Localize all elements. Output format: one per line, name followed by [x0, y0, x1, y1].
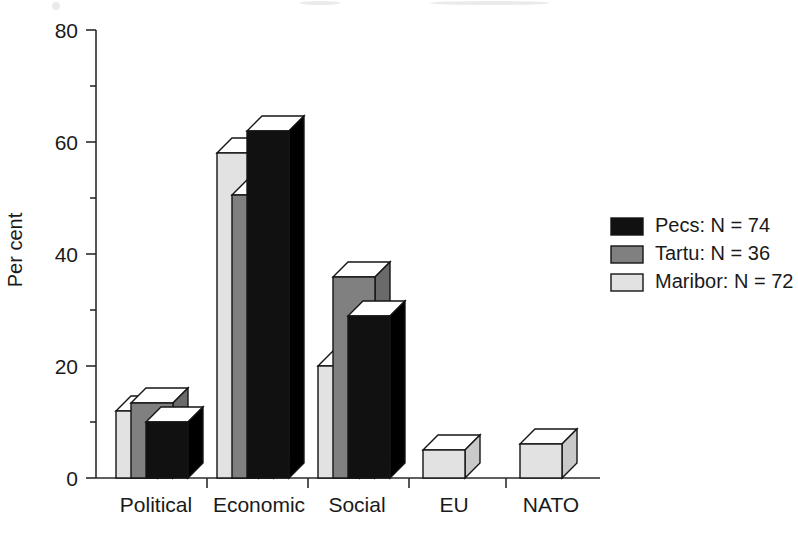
- legend-swatch-black: [611, 218, 643, 235]
- y-axis-title: Per cent: [4, 212, 26, 287]
- x-label-nato: NATO: [523, 493, 579, 516]
- y-tick-label-0: 0: [66, 467, 78, 490]
- legend-item-pecs[interactable]: Pecs: N = 74: [611, 214, 770, 236]
- bar-group-eu: [423, 435, 480, 478]
- legend-item-tartu[interactable]: Tartu: N = 36: [611, 242, 770, 264]
- chart-figure: Per cent 80 60 40 20 0: [0, 0, 798, 536]
- bar-front-face: [520, 444, 562, 478]
- bar-eu-maribor: [423, 435, 480, 478]
- legend-swatch-gray: [611, 246, 643, 263]
- bar-group-political: [116, 388, 203, 478]
- bar-front-face: [247, 131, 289, 478]
- y-tick-label-80: 80: [55, 19, 78, 42]
- bar-group-nato: [520, 429, 577, 478]
- bar-group-economic: [217, 116, 304, 478]
- legend-swatch-light: [611, 274, 643, 291]
- legend-item-maribor[interactable]: Maribor: N = 72: [611, 270, 793, 292]
- y-tick-label-40: 40: [55, 243, 78, 266]
- legend-label-tartu: Tartu: N = 36: [655, 242, 770, 264]
- bar-social-pecs: [348, 301, 405, 478]
- bar-chart-canvas: Per cent 80 60 40 20 0: [0, 0, 798, 536]
- x-label-political: Political: [120, 493, 192, 516]
- bar-economic-pecs: [247, 116, 304, 478]
- bar-front-face: [146, 422, 188, 478]
- x-axis-ticks: [207, 478, 506, 488]
- y-tick-label-20: 20: [55, 355, 78, 378]
- bar-group-social: [318, 262, 405, 478]
- y-tick-label-60: 60: [55, 131, 78, 154]
- bar-side-face: [289, 116, 304, 478]
- chart-legend: Pecs: N = 74 Tartu: N = 36 Maribor: N = …: [611, 214, 793, 292]
- bar-front-face: [348, 316, 390, 478]
- x-label-economic: Economic: [213, 493, 305, 516]
- x-label-eu: EU: [439, 493, 468, 516]
- bar-front-face: [423, 450, 465, 478]
- legend-label-maribor: Maribor: N = 72: [655, 270, 793, 292]
- legend-label-pecs: Pecs: N = 74: [655, 214, 770, 236]
- bar-nato-maribor: [520, 429, 577, 478]
- bar-political-pecs: [146, 407, 203, 478]
- y-axis-ticks: [86, 30, 96, 478]
- bar-side-face: [390, 301, 405, 478]
- x-label-social: Social: [328, 493, 385, 516]
